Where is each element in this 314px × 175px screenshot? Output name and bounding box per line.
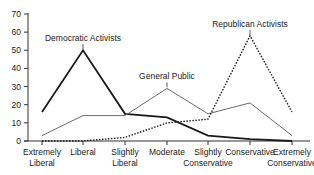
x-tick-label: Conservative: [183, 158, 233, 168]
y-tick-label: 30: [12, 82, 22, 92]
y-tick-label: 20: [12, 100, 22, 110]
x-tick-label: Extremely: [273, 147, 312, 157]
series-line-democratic-activists: [42, 50, 292, 141]
series-line-general-public: [42, 88, 292, 135]
x-tick-label: Slightly: [111, 147, 139, 157]
x-tick-label: Conservative: [267, 158, 314, 168]
series-lines: [42, 36, 292, 141]
y-tick-label: 70: [12, 9, 22, 19]
series-label-democratic-activists: Democratic Activists: [45, 33, 121, 43]
y-tick-label: 0: [16, 136, 21, 146]
x-tick-label: Extremely: [23, 147, 62, 157]
line-chart: 010203040506070ExtremelyLiberalLiberalSl…: [0, 0, 314, 175]
y-tick-label: 40: [12, 63, 22, 73]
y-tick-label: 50: [12, 45, 22, 55]
y-tick-label: 60: [12, 27, 22, 37]
x-tick-label: Liberal: [70, 147, 96, 157]
chart-canvas: 010203040506070ExtremelyLiberalLiberalSl…: [0, 0, 314, 175]
x-tick-label: Liberal: [112, 158, 138, 168]
series-label-general-public: General Public: [139, 71, 196, 81]
x-tick-label: Slightly: [194, 147, 222, 157]
x-tick-label: Liberal: [29, 158, 55, 168]
series-label-republican-activists: Republican Activists: [212, 19, 288, 29]
x-tick-label: Conservative: [225, 147, 275, 157]
x-tick-label: Moderate: [149, 147, 185, 157]
y-tick-label: 10: [12, 118, 22, 128]
